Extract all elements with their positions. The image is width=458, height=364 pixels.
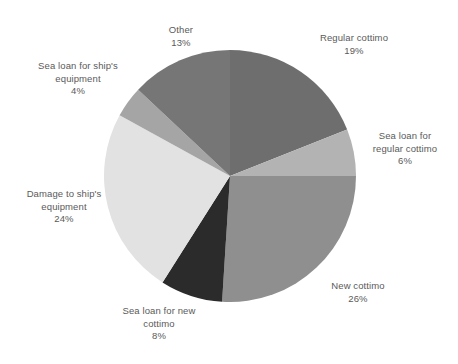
- pie-chart-graphic: [104, 50, 356, 302]
- pie-label-sea-loan-regular-cottimo-value: 6%: [355, 155, 455, 168]
- pie-label-sea-loan-ships-equipment: Sea loan for ship's equipment 4%: [20, 60, 136, 98]
- pie-label-sea-loan-new-cottimo: Sea loan for new cottimo 8%: [96, 305, 222, 343]
- pie-label-sea-loan-new-cottimo-line1: Sea loan for new: [96, 305, 222, 318]
- pie-label-new-cottimo-value: 26%: [305, 293, 411, 306]
- pie-label-sea-loan-new-cottimo-line2: cottimo: [96, 318, 222, 331]
- pie-label-other-value: 13%: [146, 37, 216, 50]
- pie-label-sea-loan-new-cottimo-value: 8%: [96, 330, 222, 343]
- pie-label-damage-ships-equipment-value: 24%: [8, 213, 120, 226]
- pie-label-damage-ships-equipment: Damage to ship's equipment 24%: [8, 188, 120, 226]
- pie-label-sea-loan-regular-cottimo: Sea loan for regular cottimo 6%: [355, 130, 455, 168]
- pie-label-regular-cottimo-value: 19%: [292, 45, 416, 58]
- pie-chart-figure: Regular cottimo 19% Sea loan for regular…: [0, 0, 458, 364]
- pie-label-other: Other 13%: [146, 24, 216, 49]
- pie-svg: [104, 50, 356, 302]
- pie-label-regular-cottimo-name: Regular cottimo: [292, 32, 416, 45]
- pie-label-sea-loan-ships-equipment-value: 4%: [20, 85, 136, 98]
- pie-label-other-name: Other: [146, 24, 216, 37]
- pie-label-sea-loan-ships-equipment-line1: Sea loan for ship's: [20, 60, 136, 73]
- pie-label-new-cottimo: New cottimo 26%: [305, 280, 411, 305]
- pie-label-new-cottimo-name: New cottimo: [305, 280, 411, 293]
- pie-label-damage-ships-equipment-line1: Damage to ship's: [8, 188, 120, 201]
- pie-slice-group: [104, 50, 356, 302]
- pie-label-sea-loan-ships-equipment-line2: equipment: [20, 73, 136, 86]
- pie-label-sea-loan-regular-cottimo-line1: Sea loan for: [355, 130, 455, 143]
- pie-label-damage-ships-equipment-line2: equipment: [8, 201, 120, 214]
- pie-label-sea-loan-regular-cottimo-line2: regular cottimo: [355, 143, 455, 156]
- pie-label-regular-cottimo: Regular cottimo 19%: [292, 32, 416, 57]
